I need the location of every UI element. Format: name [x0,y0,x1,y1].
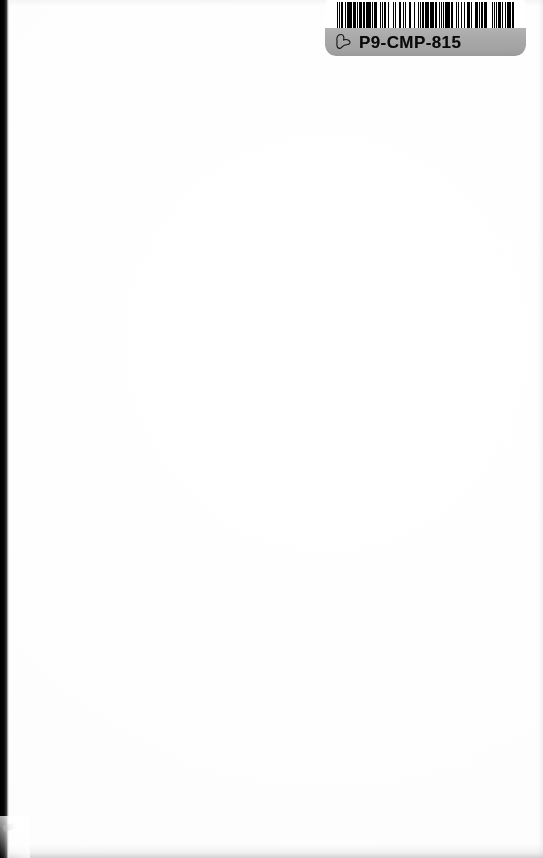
scan-gutter-fade [0,816,30,858]
scan-gutter-edge [0,0,9,858]
barcode-icon [337,2,515,28]
barcode-label[interactable]: P9-CMP-815 [325,0,526,56]
paper-surface [0,0,543,858]
hand-pointer-icon [333,32,353,51]
call-number-text: P9-CMP-815 [359,34,461,51]
label-band: P9-CMP-815 [325,28,526,56]
page-bottom-shadow [9,844,543,858]
scanned-page: P9-CMP-815 [0,0,543,858]
page-right-shadow [538,0,543,858]
